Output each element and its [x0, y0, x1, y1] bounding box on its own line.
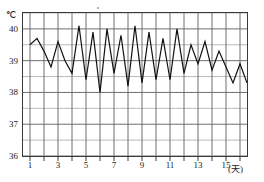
artifact-speck [97, 7, 99, 9]
y-axis-tick-label: 39 [0, 56, 18, 66]
plot-area [22, 12, 248, 157]
y-axis-unit-label: ℃ [6, 10, 16, 20]
y-axis-tick-label: 38 [0, 87, 18, 97]
temperature-chart-figure: ℃ (天) 3637383940 13579111315 [0, 0, 264, 182]
temperature-line-series [23, 13, 247, 156]
y-axis-tick-label: 37 [0, 119, 18, 129]
y-axis-tick-label: 40 [0, 24, 18, 34]
